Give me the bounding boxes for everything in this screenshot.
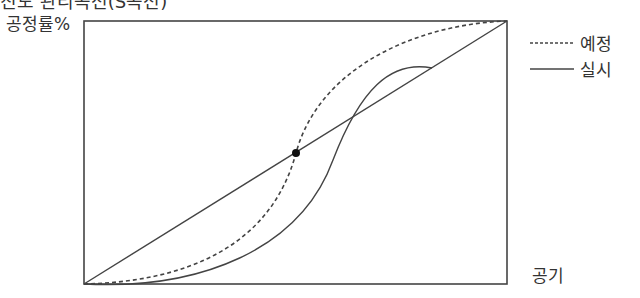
legend-item-planned: 예정 bbox=[530, 30, 612, 55]
dashed-line-icon bbox=[530, 40, 574, 46]
solid-line-icon bbox=[530, 66, 574, 72]
intersection-point bbox=[292, 149, 300, 157]
legend-label-planned: 예정 bbox=[580, 30, 612, 55]
legend-label-actual: 실시 bbox=[580, 56, 612, 81]
legend-item-actual: 실시 bbox=[530, 56, 612, 81]
